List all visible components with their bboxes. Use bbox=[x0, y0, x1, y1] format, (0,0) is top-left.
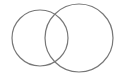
right-circle bbox=[45, 4, 113, 72]
venn-diagram bbox=[0, 0, 121, 77]
left-circle bbox=[12, 10, 68, 66]
